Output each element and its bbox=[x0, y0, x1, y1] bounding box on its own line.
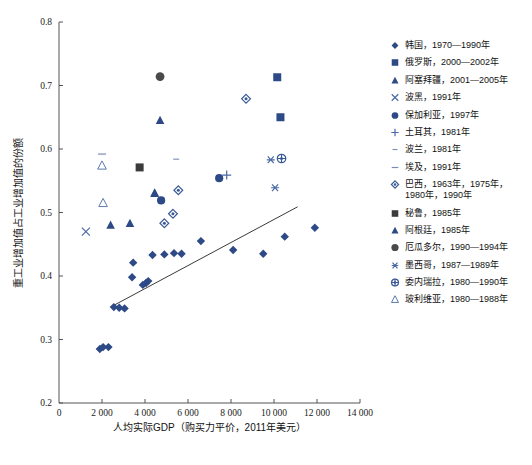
x-tick-label: 4 000 bbox=[134, 408, 156, 418]
data-point-triangle-open bbox=[391, 296, 398, 303]
legend-marker bbox=[388, 260, 402, 271]
diamond-icon bbox=[197, 237, 205, 245]
data-point-diamond-filled bbox=[129, 258, 137, 266]
triangle-icon bbox=[156, 116, 165, 124]
triangle-icon bbox=[126, 219, 135, 227]
legend-marker bbox=[388, 277, 402, 288]
data-point-diamond-filled bbox=[311, 224, 319, 232]
x-tick-label: 12 000 bbox=[304, 408, 330, 418]
triangle-outline-icon bbox=[391, 296, 398, 303]
legend-item[interactable]: 保加利亚，1997年 bbox=[388, 110, 532, 121]
data-point-plus bbox=[222, 171, 231, 180]
legend-label: 俄罗斯，2000—2002年 bbox=[405, 57, 499, 68]
series-波黑 bbox=[82, 228, 90, 236]
legend-item[interactable]: 厄瓜多尔，1990—1994年 bbox=[388, 242, 532, 253]
data-point-circle-open bbox=[277, 154, 286, 163]
legend-marker bbox=[388, 110, 402, 121]
circle-icon bbox=[392, 112, 399, 119]
diamond-icon bbox=[229, 246, 237, 254]
legend-item[interactable]: 俄罗斯，2000—2002年 bbox=[388, 57, 532, 68]
legend-marker bbox=[388, 127, 402, 138]
diamond-icon bbox=[160, 250, 168, 258]
x-tick-label: 0 bbox=[57, 408, 62, 418]
data-point-diamond-filled bbox=[197, 237, 205, 245]
diamond-center-icon bbox=[163, 222, 166, 225]
diamond-icon bbox=[311, 224, 319, 232]
series-委内瑞拉 bbox=[277, 154, 286, 163]
data-point-triangle-open bbox=[98, 161, 107, 169]
data-point-diamond-filled bbox=[148, 251, 156, 259]
legend-item[interactable]: 委内瑞拉，1980—1990年 bbox=[388, 277, 532, 288]
data-point-diamond-filled bbox=[392, 42, 399, 49]
series-厄瓜多尔 bbox=[156, 72, 165, 81]
data-point-diamond-filled bbox=[170, 249, 178, 257]
plus-icon bbox=[222, 171, 231, 180]
legend-marker bbox=[388, 208, 402, 219]
legend-item[interactable]: 波黑，1991年 bbox=[388, 92, 532, 103]
legend-marker bbox=[388, 225, 402, 236]
chart-legend: 韩国，1970—1990年俄罗斯，2000—2002年阿塞拜疆，2001—200… bbox=[388, 40, 532, 312]
plus-icon bbox=[391, 129, 398, 136]
square-icon bbox=[392, 60, 399, 67]
legend-item[interactable]: 秘鲁，1985年 bbox=[388, 208, 532, 219]
asterisk-icon bbox=[271, 184, 279, 191]
data-point-triangle-filled bbox=[126, 219, 135, 227]
data-point-plus bbox=[391, 129, 398, 136]
triangle-outline-icon bbox=[99, 198, 108, 206]
data-point-triangle-filled bbox=[106, 221, 115, 229]
triangle-icon bbox=[391, 227, 398, 234]
triangle-icon bbox=[106, 221, 115, 229]
y-tick-label: 0.3 bbox=[40, 335, 52, 345]
legend-label: 保加利亚，1997年 bbox=[405, 110, 479, 121]
data-point-x-cross bbox=[82, 228, 90, 236]
legend-label: 埃及，1991年 bbox=[405, 162, 461, 173]
legend-item[interactable]: 埃及，1991年 bbox=[388, 162, 532, 173]
data-point-x-cross bbox=[392, 94, 399, 101]
data-point-triangle-filled bbox=[156, 116, 165, 124]
legend-marker bbox=[388, 75, 402, 86]
legend-item[interactable]: 波兰，1981年 bbox=[388, 144, 532, 155]
square-icon bbox=[276, 113, 284, 121]
data-point-diamond-open bbox=[169, 209, 178, 218]
diamond-icon bbox=[177, 250, 185, 258]
asterisk-icon bbox=[392, 262, 399, 268]
data-point-square-filled bbox=[392, 60, 399, 67]
legend-marker bbox=[388, 294, 402, 305]
y-tick-label: 0.7 bbox=[40, 81, 52, 91]
legend-label: 阿塞拜疆，2001—2005年 bbox=[405, 75, 508, 86]
data-point-square-filled bbox=[273, 73, 281, 81]
series-阿塞拜疆 bbox=[106, 116, 164, 229]
data-point-square-dark bbox=[136, 163, 144, 171]
y-tick-label: 0.5 bbox=[40, 208, 52, 218]
data-point-diamond-open bbox=[242, 94, 251, 103]
data-point-square-dark bbox=[392, 210, 399, 217]
series-俄罗斯 bbox=[273, 73, 284, 121]
data-point-circle-dark bbox=[391, 244, 398, 251]
series-巴西 bbox=[160, 94, 251, 227]
x-axis-title: 人均实际GDP（购买力平价，2011年美元） bbox=[113, 421, 306, 433]
legend-item[interactable]: 巴西，1963年，1975年， 1980年，1990年 bbox=[388, 179, 532, 201]
legend-marker bbox=[388, 179, 402, 190]
diamond-icon bbox=[281, 232, 289, 240]
legend-label: 波黑，1991年 bbox=[405, 92, 461, 103]
square-icon bbox=[136, 163, 144, 171]
data-point-circle-filled bbox=[392, 112, 399, 119]
diamond-center-icon bbox=[245, 97, 248, 100]
diamond-icon bbox=[120, 304, 128, 312]
data-point-circle-open bbox=[391, 279, 398, 286]
legend-item[interactable]: 韩国，1970—1990年 bbox=[388, 40, 532, 51]
diamond-icon bbox=[148, 251, 156, 259]
legend-item[interactable]: 玻利维亚，1980—1988年 bbox=[388, 294, 532, 305]
diamond-icon bbox=[259, 250, 267, 258]
legend-label: 韩国，1970—1990年 bbox=[405, 40, 490, 51]
legend-marker bbox=[388, 92, 402, 103]
legend-item[interactable]: 墨西哥，1987—1989年 bbox=[388, 260, 532, 271]
asterisk-icon bbox=[267, 156, 275, 163]
x-tick-label: 8 000 bbox=[220, 408, 242, 418]
circle-icon bbox=[391, 244, 398, 251]
legend-item[interactable]: 土耳其，1981年 bbox=[388, 127, 532, 138]
data-point-circle-filled bbox=[157, 196, 165, 204]
legend-item[interactable]: 阿根廷，1985年 bbox=[388, 225, 532, 236]
legend-item[interactable]: 阿塞拜疆，2001—2005年 bbox=[388, 75, 532, 86]
diamond-icon bbox=[392, 42, 399, 49]
